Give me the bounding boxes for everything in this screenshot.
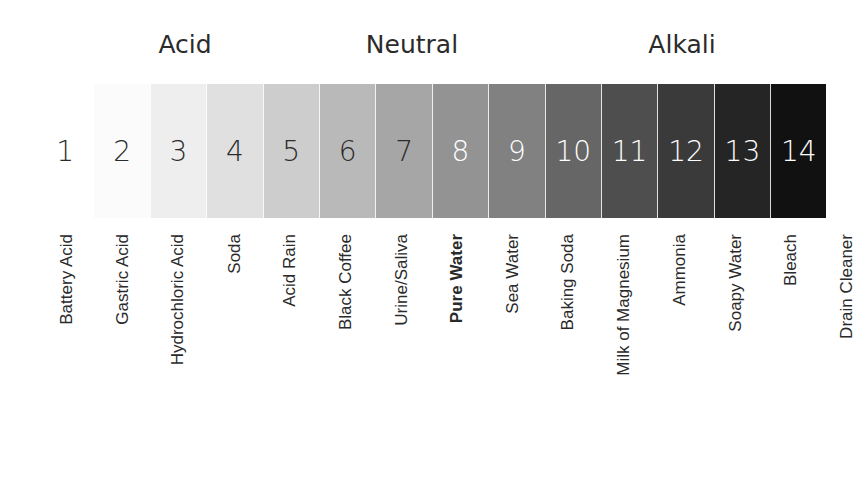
substance-label: Sea Water <box>474 234 530 464</box>
ph-cell-5: 5 <box>263 84 319 218</box>
group-label-alkali: Alkali <box>648 30 715 59</box>
ph-value: 9 <box>508 135 526 168</box>
substance-text: Pure Water <box>447 234 467 323</box>
ph-cell-13: 13 <box>714 84 770 218</box>
substance-text: Hydrochloric Acid <box>169 234 189 365</box>
substance-label: Battery Acid <box>29 234 85 464</box>
ph-value: 11 <box>612 135 648 168</box>
ph-value: 12 <box>668 135 704 168</box>
substance-text: Soapy Water <box>725 234 745 332</box>
ph-value: 13 <box>725 135 761 168</box>
ph-cell-6: 6 <box>319 84 375 218</box>
substance-label: Ammonia <box>642 234 698 464</box>
group-label-acid: Acid <box>158 30 211 59</box>
substance-text: Battery Acid <box>57 234 77 325</box>
substance-label: Baking Soda <box>530 234 586 464</box>
ph-value: 1 <box>56 135 74 168</box>
substance-label: Soapy Water <box>697 234 753 464</box>
substance-label: Acid Rain <box>252 234 308 464</box>
substance-text: Urine/Saliva <box>391 234 411 326</box>
ph-value: 10 <box>555 135 591 168</box>
substance-label: Black Coffee <box>307 234 363 464</box>
substance-label: Soda <box>196 234 252 464</box>
ph-cell-9: 9 <box>488 84 544 218</box>
substance-label: Gastric Acid <box>85 234 141 464</box>
substance-label: Pure Water <box>419 234 475 464</box>
substance-text: Gastric Acid <box>113 234 133 325</box>
group-label-neutral: Neutral <box>366 30 458 59</box>
ph-cell-1: 1 <box>37 84 93 218</box>
ph-value: 7 <box>395 135 413 168</box>
substance-text: Acid Rain <box>280 234 300 307</box>
substance-text: Ammonia <box>670 234 690 306</box>
ph-cell-12: 12 <box>657 84 713 218</box>
ph-value: 5 <box>282 135 300 168</box>
ph-cell-4: 4 <box>206 84 262 218</box>
substance-text: Sea Water <box>503 234 523 314</box>
substance-text: Bleach <box>781 234 801 286</box>
ph-value: 3 <box>170 135 188 168</box>
ph-value: 6 <box>339 135 357 168</box>
substance-text: Baking Soda <box>558 234 578 330</box>
ph-value: 4 <box>226 135 244 168</box>
substance-label: Milk of Magnesium <box>586 234 642 464</box>
ph-cell-14: 14 <box>770 84 826 218</box>
substance-text: Drain Cleaner <box>837 234 857 339</box>
ph-scale-bar: 1234567891011121314 <box>37 84 826 218</box>
ph-value: 2 <box>113 135 131 168</box>
substance-text: Milk of Magnesium <box>614 234 634 376</box>
ph-cell-2: 2 <box>93 84 149 218</box>
ph-cell-10: 10 <box>545 84 601 218</box>
substance-label: Bleach <box>753 234 809 464</box>
substance-text: Soda <box>224 234 244 274</box>
ph-cell-8: 8 <box>432 84 488 218</box>
ph-cell-11: 11 <box>601 84 657 218</box>
ph-value: 8 <box>452 135 470 168</box>
substance-text: Black Coffee <box>336 234 356 330</box>
ph-value: 14 <box>781 135 817 168</box>
ph-cell-3: 3 <box>150 84 206 218</box>
ph-cell-7: 7 <box>375 84 431 218</box>
substance-label: Drain Cleaner <box>809 234 864 464</box>
substance-label: Hydrochloric Acid <box>140 234 196 464</box>
substance-label: Urine/Saliva <box>363 234 419 464</box>
